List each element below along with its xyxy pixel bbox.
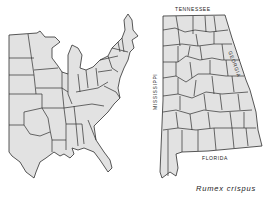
alabama-county-map [160, 15, 262, 178]
species-caption: Rumex crispus [196, 184, 256, 193]
distribution-map [0, 0, 267, 200]
florida-label: FLORIDA [202, 155, 228, 161]
mississippi-label: MISSISSIPPI [152, 74, 158, 110]
tennessee-label: TENNESSEE [175, 6, 211, 12]
eastern-us-map [9, 14, 138, 178]
